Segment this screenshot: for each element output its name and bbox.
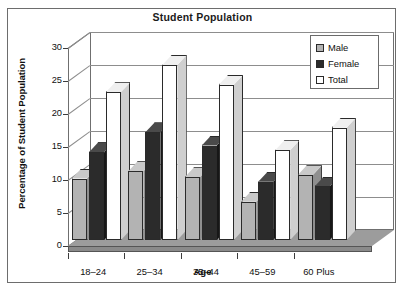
gridline-side bbox=[68, 98, 91, 115]
legend-label: Male bbox=[328, 43, 348, 52]
floor-front-edge bbox=[68, 246, 372, 252]
legend-label: Female bbox=[328, 59, 359, 68]
legend-item-total[interactable]: Total bbox=[316, 72, 378, 88]
x-tick-mark bbox=[68, 253, 69, 259]
bar-front-face bbox=[332, 128, 347, 240]
bar-front-face bbox=[89, 152, 104, 240]
y-tick-mark bbox=[63, 48, 68, 49]
x-tick-label: 60 Plus bbox=[288, 266, 350, 277]
x-tick-mark bbox=[124, 253, 125, 259]
x-tick-label: 35–44 bbox=[175, 266, 237, 277]
bar-front-face bbox=[275, 150, 290, 240]
bar-front-face bbox=[241, 202, 256, 240]
bar-front-face bbox=[298, 175, 313, 240]
bar-total-2 bbox=[162, 55, 186, 246]
y-tick-label: 10 bbox=[44, 174, 62, 184]
bar-front-face bbox=[162, 65, 177, 240]
bar-total-1 bbox=[106, 82, 130, 246]
bar-front-face bbox=[106, 92, 121, 240]
bar-front-face bbox=[185, 177, 200, 240]
legend-swatch-icon bbox=[316, 44, 324, 52]
bar-front-face bbox=[72, 179, 87, 240]
chart-figure: Student Population Percentage of Student… bbox=[0, 0, 405, 295]
legend-item-male[interactable]: Male bbox=[316, 40, 378, 56]
y-tick-mark bbox=[63, 114, 68, 115]
legend-label: Total bbox=[328, 75, 348, 84]
y-tick-mark bbox=[63, 81, 68, 82]
bar-total-4 bbox=[275, 140, 299, 246]
y-tick-label: 5 bbox=[44, 207, 62, 217]
x-tick-label: 45–59 bbox=[231, 266, 293, 277]
bar-front-face bbox=[258, 182, 273, 240]
y-axis-label: Percentage of Student Population bbox=[16, 39, 27, 229]
bar-side-face bbox=[347, 118, 356, 240]
bar-front-face bbox=[128, 171, 143, 240]
chart-legend: MaleFemaleTotal bbox=[310, 35, 379, 89]
y-tick-label: 0 bbox=[44, 240, 62, 250]
legend-swatch-icon bbox=[316, 60, 324, 68]
gridline-side bbox=[68, 131, 91, 148]
x-tick-mark bbox=[237, 253, 238, 259]
y-tick-mark bbox=[63, 147, 68, 148]
gridline-side bbox=[68, 65, 91, 82]
chart-title: Student Population bbox=[0, 11, 405, 23]
x-tick-mark bbox=[181, 253, 182, 259]
y-tick-label: 25 bbox=[44, 75, 62, 85]
x-tick-label: 25–34 bbox=[118, 266, 180, 277]
y-tick-label: 30 bbox=[44, 42, 62, 52]
bar-front-face bbox=[202, 146, 217, 240]
x-tick-mark bbox=[294, 253, 295, 259]
gridline bbox=[90, 32, 394, 33]
bar-total-5 bbox=[332, 118, 356, 246]
bar-front-face bbox=[219, 85, 234, 240]
bar-front-face bbox=[315, 186, 330, 239]
y-tick-mark bbox=[63, 213, 68, 214]
legend-item-female[interactable]: Female bbox=[316, 56, 378, 72]
y-tick-label: 15 bbox=[44, 141, 62, 151]
bar-front-face bbox=[145, 132, 160, 240]
y-tick-label: 20 bbox=[44, 108, 62, 118]
bar-total-3 bbox=[219, 75, 243, 246]
legend-swatch-icon bbox=[316, 76, 324, 84]
y-tick-mark bbox=[63, 180, 68, 181]
y-tick-mark bbox=[63, 246, 68, 247]
x-tick-label: 18–24 bbox=[62, 266, 124, 277]
